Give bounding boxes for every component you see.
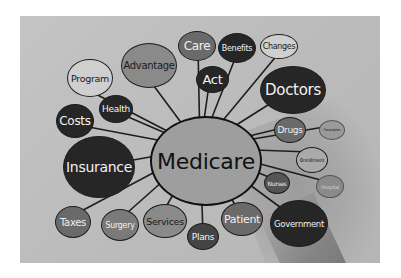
node-drugs: Drugs — [274, 117, 306, 143]
node-advantage: Advantage — [121, 43, 177, 88]
node-prescription: Prescription — [319, 120, 345, 140]
center-label: Medicare — [157, 149, 255, 174]
node-label: Patient — [224, 213, 260, 226]
node-label: Care — [184, 39, 211, 53]
node-label: Benefits — [222, 44, 252, 53]
node-doctors: Doctors — [260, 66, 326, 114]
node-hospital: Hospital — [316, 175, 344, 198]
node-care: Care — [178, 31, 216, 61]
node-costs: Costs — [56, 104, 94, 138]
node-label: Surgery — [105, 221, 134, 230]
node-nurses: Nurses — [264, 172, 290, 194]
node-enrollment: Enrollment — [296, 147, 328, 173]
node-label: Taxes — [60, 217, 86, 228]
node-label: Nurses — [268, 180, 287, 187]
node-patient: Patient — [221, 202, 263, 236]
node-label: Hospital — [321, 184, 339, 190]
node-act: Act — [196, 66, 229, 93]
node-label: Drugs — [277, 125, 302, 135]
node-services: Services — [143, 204, 187, 238]
node-insurance: Insurance — [63, 136, 135, 198]
node-label: Doctors — [265, 81, 321, 99]
mind-map-photo: Care Benefits Changes Advantage Program … — [20, 16, 380, 263]
node-label: Costs — [59, 114, 90, 128]
node-label: Services — [146, 216, 184, 227]
node-label: Health — [102, 104, 130, 114]
node-medicare-center: Medicare — [150, 116, 262, 206]
node-government: Government — [270, 200, 328, 247]
node-changes: Changes — [260, 34, 298, 59]
node-label: Advantage — [123, 60, 174, 71]
node-label: Insurance — [66, 159, 132, 175]
node-plans: Plans — [187, 223, 219, 250]
node-program: Program — [67, 59, 113, 97]
node-label: Prescription — [323, 128, 340, 132]
node-label: Enrollment — [300, 157, 324, 163]
node-label: Program — [71, 73, 109, 84]
node-benefits: Benefits — [218, 33, 256, 63]
node-label: Act — [202, 72, 222, 87]
node-label: Changes — [263, 42, 296, 51]
node-surgery: Surgery — [101, 209, 139, 241]
node-label: Government — [274, 219, 324, 229]
node-label: Plans — [192, 232, 214, 242]
node-taxes: Taxes — [55, 206, 91, 238]
node-health: Health — [99, 95, 133, 123]
